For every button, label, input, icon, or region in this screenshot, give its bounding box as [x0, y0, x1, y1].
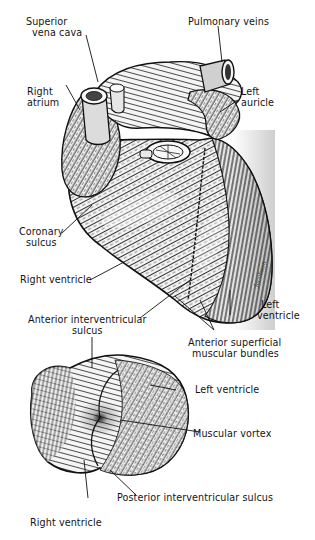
label-anterior-superficial-muscular-bundles: Anterior superficial muscular bundles	[188, 337, 281, 359]
label-left-ventricle-upper: Left ventricle	[257, 299, 300, 321]
label-pulmonary-veins: Pulmonary veins	[188, 16, 269, 27]
lower-heart	[31, 355, 188, 475]
label-line: Anterior interventricular	[28, 314, 147, 325]
label-line: muscular bundles	[188, 348, 281, 359]
label-anterior-interventricular-sulcus: Anterior interventricular sulcus	[28, 314, 147, 336]
label-right-ventricle-upper: Right ventricle	[20, 274, 92, 285]
label-left-ventricle-lower: Left ventricle	[195, 384, 259, 395]
label-line: Left	[241, 86, 274, 97]
label-posterior-interventricular-sulcus: Posterior interventricular sulcus	[117, 492, 273, 503]
label-line: Superior	[26, 16, 82, 27]
label-line: sulcus	[19, 237, 64, 248]
label-left-auricle: Left auricle	[241, 86, 274, 108]
label-line: vena cava	[26, 27, 82, 38]
heart-illustration	[0, 0, 315, 540]
label-line: Right	[27, 86, 59, 97]
label-line: Left	[257, 299, 300, 310]
label-line: Coronary	[19, 226, 64, 237]
label-superior-vena-cava: Superior vena cava	[26, 16, 82, 38]
label-line: auricle	[241, 97, 274, 108]
label-right-atrium: Right atrium	[27, 86, 59, 108]
label-line: Anterior superficial	[188, 337, 281, 348]
label-line: atrium	[27, 97, 59, 108]
label-muscular-vortex: Muscular vortex	[193, 428, 271, 439]
label-line: sulcus	[28, 325, 147, 336]
label-coronary-sulcus: Coronary sulcus	[19, 226, 64, 248]
label-line: ventricle	[257, 310, 300, 321]
label-right-ventricle-lower: Right ventricle	[30, 517, 102, 528]
heart-anatomy-figure: Superior vena cava Pulmonary veins Right…	[0, 0, 315, 540]
